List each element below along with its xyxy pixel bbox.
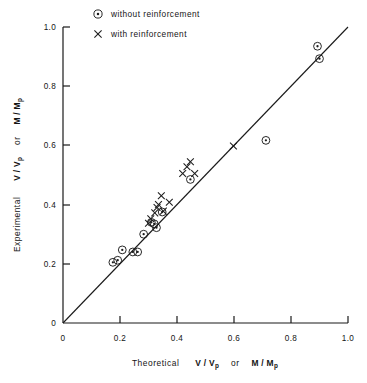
x-axis-title-prefix: Theoretical bbox=[132, 358, 179, 368]
legend-label-1: with reinforcement bbox=[110, 29, 187, 39]
y-axis-title-q2: M / M bbox=[12, 102, 22, 124]
data-point bbox=[155, 201, 162, 208]
y-axis-tick-labels: 1.0 0.8 0.6 0.4 0.2 0 bbox=[44, 23, 56, 328]
scatter-chart-figure: 1.0 0.8 0.6 0.4 0.2 0 0 0.2 0.4 0.6 0.8 … bbox=[0, 0, 367, 383]
x-ticklabel-5: 1.0 bbox=[342, 334, 354, 343]
data-point bbox=[262, 136, 270, 144]
y-ticklabel-4: 0.8 bbox=[44, 82, 56, 91]
legend-circle-dot-center-icon bbox=[97, 13, 100, 16]
x-axis-title-conj: or bbox=[231, 358, 240, 368]
y-axis-title-q1-sub: p bbox=[16, 157, 24, 161]
legend: without reinforcement with reinforcement bbox=[94, 9, 200, 39]
equality-reference-line bbox=[63, 27, 348, 323]
circle-marker-center-icon bbox=[117, 259, 119, 261]
data-point bbox=[166, 199, 173, 206]
y-axis-ticks bbox=[63, 27, 70, 264]
circle-marker-center-icon bbox=[316, 45, 318, 47]
chart-svg: 1.0 0.8 0.6 0.4 0.2 0 0 0.2 0.4 0.6 0.8 … bbox=[0, 0, 367, 383]
data-point bbox=[230, 143, 237, 150]
x-axis-title-q1: V / V bbox=[195, 358, 215, 368]
data-point bbox=[191, 170, 198, 177]
data-point bbox=[109, 258, 117, 266]
legend-label-0: without reinforcement bbox=[110, 9, 200, 19]
x-axis-title-q2-sub: p bbox=[274, 362, 278, 370]
circle-marker-center-icon bbox=[121, 249, 123, 251]
svg-text:Theoretical V / Vp: Theoretical V / Vp or M / Mp bbox=[132, 358, 278, 370]
svg-text:Experimental V / Vp: Experimental V / Vp or M / Mp bbox=[12, 98, 24, 252]
data-point bbox=[140, 230, 148, 238]
x-axis-tick-labels: 0 0.2 0.4 0.6 0.8 1.0 bbox=[61, 334, 355, 343]
data-point bbox=[184, 163, 191, 170]
data-point bbox=[314, 42, 322, 50]
y-ticklabel-2: 0.4 bbox=[44, 201, 56, 210]
y-ticklabel-1: 0.2 bbox=[44, 260, 56, 269]
x-ticklabel-0: 0 bbox=[61, 334, 66, 343]
data-point bbox=[186, 176, 194, 184]
y-axis-title-q1: V / V bbox=[12, 161, 22, 181]
data-point bbox=[114, 256, 122, 264]
y-ticklabel-5: 1.0 bbox=[44, 23, 56, 32]
legend-entry-without-reinforcement: without reinforcement bbox=[94, 9, 200, 19]
circle-marker-center-icon bbox=[155, 227, 157, 229]
data-point bbox=[187, 158, 194, 165]
circle-marker-center-icon bbox=[265, 139, 267, 141]
y-ticklabel-3: 0.6 bbox=[44, 141, 56, 150]
x-ticklabel-4: 0.8 bbox=[285, 334, 297, 343]
y-ticklabel-0: 0 bbox=[51, 319, 56, 328]
x-ticklabel-2: 0.4 bbox=[171, 334, 183, 343]
y-axis-title: Experimental V / Vp or M / Mp bbox=[12, 98, 24, 252]
circle-marker-center-icon bbox=[318, 58, 320, 60]
legend-entry-with-reinforcement: with reinforcement bbox=[94, 29, 187, 39]
legend-cross-icon bbox=[94, 30, 101, 37]
x-axis-title-q2: M / M bbox=[251, 358, 273, 368]
data-markers-group bbox=[109, 42, 323, 266]
series-without-reinforcement bbox=[109, 42, 323, 266]
data-point bbox=[118, 246, 126, 254]
x-ticklabel-1: 0.2 bbox=[114, 334, 126, 343]
x-axis-title: Theoretical V / Vp or M / Mp bbox=[132, 358, 278, 370]
x-axis-title-q1-sub: p bbox=[215, 362, 219, 370]
data-point bbox=[179, 170, 186, 177]
y-axis-title-q2-sub: p bbox=[16, 98, 24, 102]
circle-marker-center-icon bbox=[143, 233, 145, 235]
y-axis-title-conj: or bbox=[12, 136, 22, 145]
data-point bbox=[158, 192, 165, 199]
circle-marker-center-icon bbox=[189, 178, 191, 180]
y-axis-title-prefix: Experimental bbox=[12, 197, 22, 252]
x-axis-ticks bbox=[120, 316, 348, 323]
circle-marker-center-icon bbox=[137, 251, 139, 253]
x-ticklabel-3: 0.6 bbox=[228, 334, 240, 343]
data-point bbox=[134, 248, 142, 256]
